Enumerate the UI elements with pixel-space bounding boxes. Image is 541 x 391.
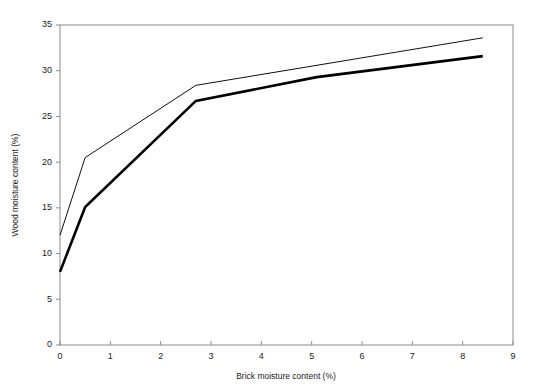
plot-frame <box>60 25 513 345</box>
plot-border <box>60 25 513 345</box>
y-tick-label: 5 <box>47 294 52 304</box>
y-tick-label: 35 <box>42 19 52 29</box>
y-axis-ticks: 05101520253035 <box>42 19 60 349</box>
x-axis-ticks: 0123456789 <box>57 341 515 361</box>
x-tick-label: 5 <box>309 351 314 361</box>
chart-figure: 05101520253035 0123456789 Brick moisture… <box>0 0 541 391</box>
y-tick-label: 10 <box>42 248 52 258</box>
y-tick-label: 25 <box>42 111 52 121</box>
x-tick-label: 4 <box>259 351 264 361</box>
y-tick-label: 0 <box>47 339 52 349</box>
y-tick-label: 30 <box>42 65 52 75</box>
x-tick-label: 1 <box>108 351 113 361</box>
x-tick-label: 3 <box>208 351 213 361</box>
series-lower-curve <box>60 56 483 272</box>
x-tick-label: 9 <box>510 351 515 361</box>
x-tick-label: 7 <box>410 351 415 361</box>
x-axis-title: Brick moisture content (%) <box>236 371 336 381</box>
line-chart: 05101520253035 0123456789 Brick moisture… <box>0 0 541 391</box>
y-axis-title: Wood moisture content (%) <box>10 133 20 236</box>
series-upper-curve <box>60 38 483 235</box>
x-tick-label: 0 <box>57 351 62 361</box>
y-tick-label: 20 <box>42 157 52 167</box>
x-tick-label: 6 <box>359 351 364 361</box>
y-tick-label: 15 <box>42 202 52 212</box>
x-tick-label: 8 <box>460 351 465 361</box>
x-tick-label: 2 <box>158 351 163 361</box>
data-series-group <box>60 38 483 272</box>
